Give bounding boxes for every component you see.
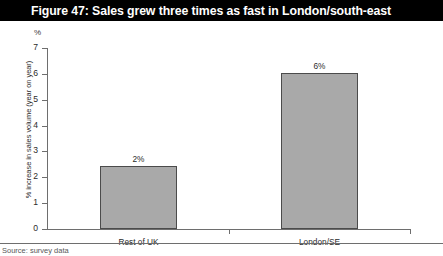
x-axis-end-tick bbox=[410, 229, 411, 234]
y-axis-tick bbox=[42, 48, 47, 49]
y-axis-tick bbox=[42, 126, 47, 127]
y-axis-tick-label: 6 bbox=[24, 68, 38, 78]
bar bbox=[100, 166, 177, 229]
y-axis-tick bbox=[42, 151, 47, 152]
footer-divider bbox=[0, 243, 443, 244]
y-axis-tick-label: 4 bbox=[24, 120, 38, 130]
y-axis-unit-label: % bbox=[34, 28, 41, 37]
y-axis-tick bbox=[42, 177, 47, 178]
y-axis-tick-label: 5 bbox=[24, 94, 38, 104]
figure-title-bar: Figure 47: Sales grew three times as fas… bbox=[0, 0, 443, 21]
bar-value-label: 2% bbox=[133, 154, 145, 164]
y-axis-tick-label: 2 bbox=[24, 171, 38, 181]
x-axis-tick bbox=[229, 229, 230, 234]
y-axis-tick-label: 3 bbox=[24, 145, 38, 155]
y-axis-tick bbox=[42, 203, 47, 204]
x-axis-category-label: London/SE bbox=[299, 237, 340, 247]
bar bbox=[281, 73, 358, 229]
y-axis-tick-label: 1 bbox=[24, 197, 38, 207]
y-axis-tick bbox=[42, 74, 47, 75]
y-axis-tick-label: 0 bbox=[24, 223, 38, 233]
y-axis-tick bbox=[42, 229, 47, 230]
y-axis-tick bbox=[42, 100, 47, 101]
footer-caption: Source: survey data bbox=[2, 246, 242, 256]
bar-chart: % % increase in sales volume (year on ye… bbox=[0, 21, 443, 235]
bar-value-label: 6% bbox=[314, 61, 326, 71]
y-axis-line bbox=[47, 48, 48, 230]
page-title: Figure 47: Sales grew three times as fas… bbox=[0, 4, 391, 18]
y-axis-tick-label: 7 bbox=[24, 42, 38, 52]
